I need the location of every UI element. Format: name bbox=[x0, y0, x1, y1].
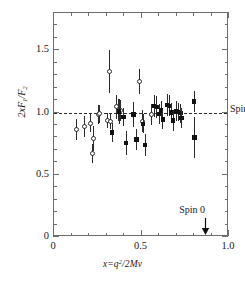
y-axis-tick-right bbox=[225, 161, 229, 162]
plot-area bbox=[53, 12, 228, 236]
y-axis-tick-right bbox=[222, 174, 228, 175]
x-axis-tick-top bbox=[158, 12, 159, 16]
y-axis-tick-label: 0 bbox=[19, 230, 49, 241]
data-point-open-circle bbox=[97, 111, 102, 116]
x-axis-tick bbox=[228, 230, 229, 236]
x-axis-tick-top bbox=[176, 12, 177, 16]
y-axis-tick-right bbox=[225, 149, 229, 150]
y-axis-tick bbox=[53, 186, 57, 187]
y-axis-tick bbox=[53, 174, 59, 175]
y-axis-tick bbox=[53, 24, 57, 25]
x-axis-tick bbox=[141, 230, 142, 236]
y-axis-tick-right bbox=[222, 112, 228, 113]
x-axis-title: x=q2/2Mν bbox=[0, 258, 245, 269]
spin-half-reference-line bbox=[54, 113, 227, 114]
data-point-open-circle bbox=[91, 136, 96, 141]
x-axis-tick-label: 1.0 bbox=[208, 240, 245, 251]
data-point-open-circle bbox=[107, 69, 112, 74]
y-axis-title: 2xF1/F2 bbox=[16, 72, 28, 132]
data-point-filled-square bbox=[192, 99, 196, 103]
data-point-filled-square bbox=[192, 135, 196, 139]
y-axis-tick-right bbox=[225, 87, 229, 88]
data-point-filled-square bbox=[121, 115, 125, 119]
y-axis-tick-right bbox=[225, 24, 229, 25]
data-point-open-circle bbox=[90, 151, 95, 156]
y-axis-tick-right bbox=[225, 37, 229, 38]
data-point-open-circle bbox=[88, 121, 93, 126]
x-axis-tick bbox=[193, 233, 194, 237]
data-point-filled-square bbox=[171, 118, 175, 122]
data-point-open-circle bbox=[82, 124, 87, 129]
y-axis-tick-right bbox=[222, 236, 228, 237]
x-axis-tick bbox=[123, 233, 124, 237]
x-axis-tick-label: 0 bbox=[33, 240, 73, 251]
data-point-filled-square bbox=[141, 122, 145, 126]
x-axis-tick bbox=[176, 233, 177, 237]
y-axis-tick bbox=[53, 87, 57, 88]
figure-root: 00.51.000.51.01.5 x=q2/2Mν 2xF1/F2 Spin1… bbox=[0, 0, 245, 284]
x-axis-tick-label: 0.5 bbox=[121, 240, 161, 251]
data-layer bbox=[54, 13, 227, 235]
data-point-filled-square bbox=[131, 112, 135, 116]
y-axis-tick bbox=[53, 224, 57, 225]
y-axis-tick-right bbox=[225, 124, 229, 125]
y-axis-tick bbox=[53, 112, 59, 113]
data-point-open-circle bbox=[137, 79, 142, 84]
data-point-filled-square bbox=[179, 116, 183, 120]
data-point-filled-square bbox=[117, 109, 121, 113]
y-axis-tick bbox=[53, 236, 59, 237]
x-axis-tick-top bbox=[88, 12, 89, 16]
x-axis-tick bbox=[88, 233, 89, 237]
y-axis-tick-right bbox=[225, 211, 229, 212]
y-axis-tick bbox=[53, 37, 57, 38]
y-axis-tick bbox=[53, 49, 59, 50]
x-axis-tick-top bbox=[211, 12, 212, 16]
y-axis-tick-right bbox=[222, 49, 228, 50]
spin-half-label-text: Spin bbox=[230, 103, 245, 114]
data-point-filled-square bbox=[124, 141, 128, 145]
x-axis-tick-top bbox=[53, 12, 54, 18]
y-axis-tick-right bbox=[225, 99, 229, 100]
y-axis-tick bbox=[53, 124, 57, 125]
x-axis-tick bbox=[71, 233, 72, 237]
data-point-filled-square bbox=[134, 137, 138, 141]
y-axis-tick bbox=[53, 62, 57, 63]
x-axis-tick-top bbox=[71, 12, 72, 16]
y-axis-tick-label: 0.5 bbox=[19, 168, 49, 179]
spin-zero-arrow-icon bbox=[200, 218, 211, 236]
y-axis-tick-right bbox=[225, 62, 229, 63]
x-axis-tick-top bbox=[141, 12, 142, 18]
y-axis-tick bbox=[53, 199, 57, 200]
data-point-filled-square bbox=[161, 117, 165, 121]
y-axis-tick bbox=[53, 149, 57, 150]
spin-zero-annotation-label: Spin 0 bbox=[179, 204, 205, 215]
y-axis-tick bbox=[53, 161, 57, 162]
y-axis-tick bbox=[53, 136, 57, 137]
x-axis-tick-top bbox=[123, 12, 124, 16]
x-axis-tick-top bbox=[228, 12, 229, 18]
y-axis-tick-right bbox=[225, 136, 229, 137]
spin-half-annotation: Spin12 bbox=[230, 100, 245, 117]
y-axis-tick bbox=[53, 99, 57, 100]
y-axis-tick bbox=[53, 211, 57, 212]
data-point-filled-square bbox=[143, 143, 147, 147]
y-axis-tick-right bbox=[225, 224, 229, 225]
y-axis-tick-right bbox=[225, 186, 229, 187]
y-axis-tick-label: 1.5 bbox=[19, 43, 49, 54]
x-axis-tick bbox=[158, 233, 159, 237]
y-axis-tick-right bbox=[225, 199, 229, 200]
data-point-open-circle bbox=[74, 127, 79, 132]
y-axis-tick bbox=[53, 74, 57, 75]
y-axis-tick-right bbox=[225, 74, 229, 75]
x-axis-tick bbox=[106, 233, 107, 237]
x-axis-tick-top bbox=[193, 12, 194, 16]
data-point-filled-square bbox=[110, 130, 114, 134]
x-axis-tick-top bbox=[106, 12, 107, 16]
